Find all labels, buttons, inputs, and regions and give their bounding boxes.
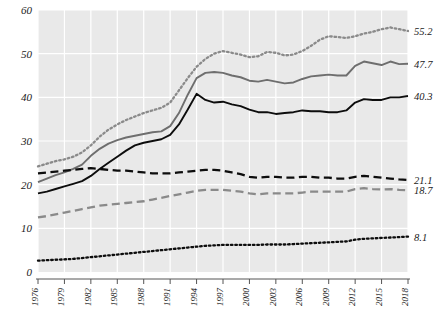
x-tick-label: 1994 <box>189 288 199 307</box>
x-tick-label: 1991 <box>162 288 172 306</box>
y-tick-label: 50 <box>21 48 33 60</box>
y-tick-label: 30 <box>20 135 33 147</box>
series-end-label: 8.1 <box>414 232 427 243</box>
x-tick-label: 2003 <box>268 288 278 307</box>
series-end-label: 40.3 <box>414 91 432 102</box>
series-end-label: 47.7 <box>414 59 433 70</box>
x-tick-label: 1979 <box>56 288 66 307</box>
x-tick-label: 2015 <box>374 288 384 307</box>
x-tick-label: 2000 <box>241 288 251 307</box>
x-axis <box>36 279 410 284</box>
y-tick-label: 10 <box>21 222 33 234</box>
series-end-label: 21.1 <box>414 175 432 186</box>
x-tick-label: 2018 <box>400 288 410 307</box>
y-axis-tick-labels: 0102030405060 <box>20 4 33 278</box>
x-tick-label: 1985 <box>109 288 119 307</box>
x-axis-tick-labels: 1976197919821985198819911994199720002003… <box>30 288 410 307</box>
series-end-label: 18.7 <box>414 185 433 196</box>
x-tick-label: 2006 <box>294 288 304 307</box>
y-tick-label: 20 <box>21 179 33 191</box>
x-tick-label: 1988 <box>136 288 146 307</box>
y-tick-label: 40 <box>21 91 33 103</box>
x-tick-label: 1997 <box>215 288 225 307</box>
y-tick-label: 60 <box>21 4 33 16</box>
x-tick-label: 2012 <box>347 288 357 307</box>
series-end-label: 55.2 <box>414 26 433 37</box>
x-tick-label: 1982 <box>83 288 93 307</box>
line-chart: 0102030405060 19761979198219851988199119… <box>0 0 448 314</box>
y-tick-label: 0 <box>27 266 33 278</box>
x-tick-label: 2009 <box>321 288 331 307</box>
x-tick-label: 1976 <box>30 288 40 307</box>
chart-container: 0102030405060 19761979198219851988199119… <box>0 0 448 314</box>
series-end-labels: 55.247.740.321.118.78.1 <box>414 26 433 243</box>
